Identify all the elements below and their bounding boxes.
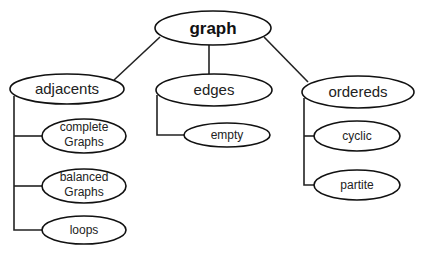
- edge-graph-adjacents: [114, 37, 160, 80]
- node-edges-label: edges: [194, 81, 235, 98]
- node-partite-label: partite: [340, 178, 374, 192]
- node-graph-label: graph: [189, 19, 236, 38]
- node-adjacents-label: adjacents: [35, 80, 99, 97]
- node-edges: edges: [156, 74, 272, 106]
- node-loops: loops: [42, 216, 126, 244]
- node-empty: empty: [184, 123, 270, 147]
- node-complete-graphs: complete Graphs: [42, 119, 126, 153]
- edge-ordereds-children: [304, 98, 314, 185]
- node-balanced-graphs-line2: Graphs: [64, 185, 103, 199]
- node-complete-graphs-line2: Graphs: [64, 135, 103, 149]
- tree-diagram: graph adjacents edges ordereds complete …: [0, 0, 427, 254]
- edge-adjacents-children: [14, 96, 42, 230]
- node-balanced-graphs: balanced Graphs: [42, 169, 126, 203]
- node-cyclic-label: cyclic: [342, 129, 371, 143]
- node-graph: graph: [155, 11, 271, 45]
- node-ordereds: ordereds: [302, 76, 414, 108]
- node-ordereds-label: ordereds: [328, 83, 387, 100]
- node-empty-label: empty: [211, 128, 244, 142]
- node-balanced-graphs-line1: balanced: [60, 170, 109, 184]
- node-partite: partite: [314, 170, 400, 200]
- node-cyclic: cyclic: [314, 121, 400, 151]
- edge-graph-ordereds: [264, 37, 308, 82]
- node-loops-label: loops: [70, 223, 99, 237]
- node-adjacents: adjacents: [10, 74, 124, 104]
- node-complete-graphs-line1: complete: [60, 120, 109, 134]
